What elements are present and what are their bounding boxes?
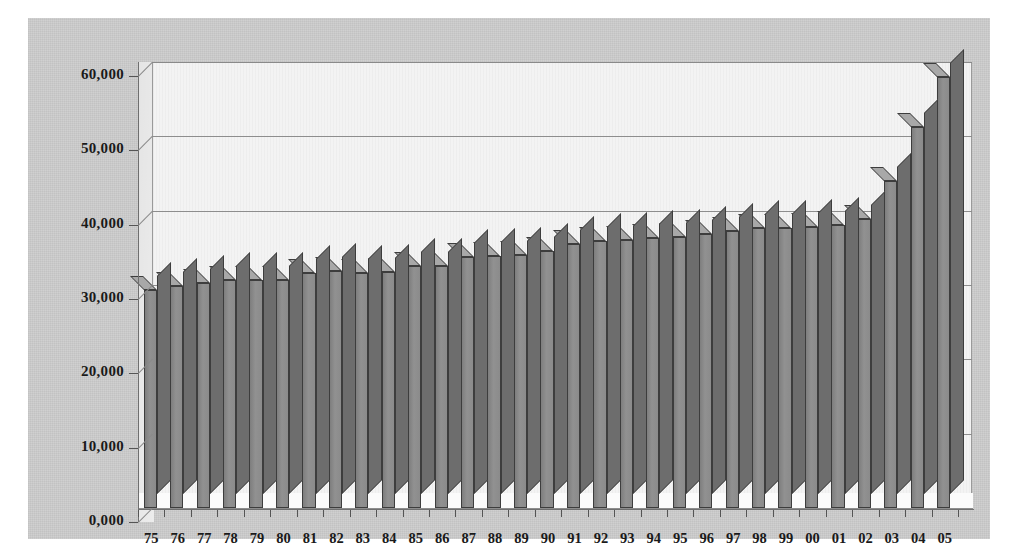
bar-side-face (236, 252, 250, 494)
bar-front-face (144, 290, 157, 508)
y-axis-tick (129, 373, 138, 374)
bar-front-face (911, 127, 924, 508)
bar-front-face (382, 272, 395, 508)
chart-panel: 0,00010,00020,00030,00040,00050,00060,00… (28, 18, 990, 539)
x-axis-tick (905, 510, 906, 517)
y-axis-label: 50,000 (28, 140, 124, 157)
bar-side-face (950, 49, 964, 494)
bar-front-face (223, 280, 236, 508)
bar-front-face (302, 273, 315, 508)
y-axis-tick (129, 299, 138, 300)
bar-side-face (210, 255, 224, 494)
x-axis-tick (350, 510, 351, 517)
x-axis-tick (297, 510, 298, 517)
bar-front-face (276, 280, 289, 508)
x-axis-tick (932, 510, 933, 517)
bar-front-face (197, 283, 210, 508)
x-axis-tick (191, 510, 192, 517)
x-axis-tick (958, 510, 959, 517)
bar-side-face (765, 200, 779, 494)
x-axis-tick (746, 510, 747, 517)
bar-front-face (673, 237, 686, 508)
bar-side-face (818, 199, 832, 494)
bar-side-face (289, 252, 303, 494)
gridline (152, 136, 972, 137)
bar-front-face (355, 273, 368, 508)
y-axis-tick (129, 150, 138, 151)
y-axis-label: 0,000 (28, 512, 124, 529)
bar-front-face (593, 241, 606, 508)
bar-side-face (183, 258, 197, 494)
x-axis-label: 75 (135, 530, 167, 547)
bar-side-face (421, 238, 435, 494)
bar-side-face (580, 216, 594, 494)
x-axis-tick (270, 510, 271, 517)
plot-area (138, 48, 988, 523)
x-axis-tick (720, 510, 721, 517)
bar-front-face (461, 257, 474, 508)
bar-front-face (699, 234, 712, 508)
bar-side-face (554, 223, 568, 494)
x-axis-tick (244, 510, 245, 517)
bar-front-face (884, 181, 897, 508)
y-axis-label: 10,000 (28, 438, 124, 455)
bar-side-face (924, 99, 938, 494)
bar-side-face (527, 227, 541, 494)
bar-front-face (620, 240, 633, 508)
bar-side-face (712, 206, 726, 494)
bar-side-face (792, 200, 806, 494)
bar-side-face (263, 252, 277, 494)
bar-front-face (487, 256, 500, 508)
x-axis-tick (403, 510, 404, 517)
bar-front-face (752, 228, 765, 508)
x-axis-tick (138, 510, 139, 517)
y-axis-tick (129, 225, 138, 226)
chart-root: 0,00010,00020,00030,00040,00050,00060,00… (0, 0, 1016, 553)
x-axis-tick (693, 510, 694, 517)
bar-front-face (329, 271, 342, 508)
bar-side-face (368, 245, 382, 494)
bar-front-face (170, 286, 183, 508)
x-axis-tick (852, 510, 853, 517)
x-axis-tick (799, 510, 800, 517)
bar-front-face (646, 238, 659, 508)
x-axis-tick (667, 510, 668, 517)
bar-front-face (567, 244, 580, 508)
bar-side-face (897, 153, 911, 494)
y-axis-tick (129, 448, 138, 449)
bar-side-face (157, 262, 171, 494)
x-axis-tick (482, 510, 483, 517)
x-axis-tick (508, 510, 509, 517)
y-axis-label: 20,000 (28, 363, 124, 380)
x-axis-tick (323, 510, 324, 517)
bar-front-face (805, 227, 818, 508)
bar-side-face (633, 212, 647, 494)
y-axis-label: 60,000 (28, 66, 124, 83)
x-axis-tick (455, 510, 456, 517)
bar-side-face (342, 243, 356, 494)
bar-front-face (408, 266, 421, 508)
x-axis-tick (561, 510, 562, 517)
bar-front-face (858, 219, 871, 508)
y-axis-tick (129, 522, 138, 523)
gridline (152, 62, 972, 63)
chart-floor (138, 493, 973, 509)
bar-side-face (448, 238, 462, 494)
bar-side-face (686, 209, 700, 494)
x-axis-line (138, 509, 974, 510)
bar-side-face (316, 245, 330, 494)
bar-side-face (607, 213, 621, 494)
bar-side-face (659, 210, 673, 494)
bar-front-face (514, 255, 527, 508)
bar-side-face (501, 228, 515, 494)
bar-front-face (778, 228, 791, 508)
bar-front-face (726, 231, 739, 508)
y-axis-tick (129, 76, 138, 77)
bar-side-face (395, 244, 409, 494)
bar-front-face (540, 251, 553, 508)
y-axis-line (138, 62, 139, 522)
x-axis-tick (217, 510, 218, 517)
x-axis-tick (641, 510, 642, 517)
x-axis-tick (164, 510, 165, 517)
bar-side-face (739, 203, 753, 494)
